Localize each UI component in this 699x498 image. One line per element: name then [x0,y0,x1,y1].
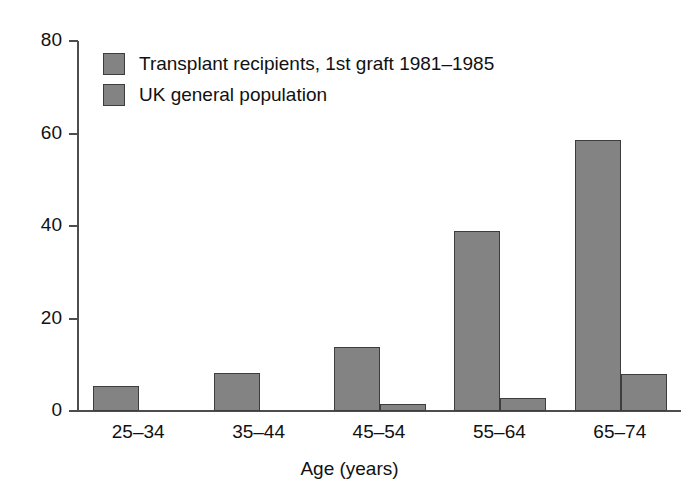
legend-swatch-icon [103,84,125,106]
bar [214,373,260,411]
legend-item-uk-general-population: UK general population [103,79,494,110]
y-tick-mark [69,318,78,320]
y-tick-label: 40 [0,215,62,234]
x-tick-label: 65–74 [560,421,680,443]
x-tick-label: 35–44 [198,421,318,443]
bar [334,347,380,411]
y-tick-label: 60 [0,123,62,142]
x-tick-label: 45–54 [319,421,439,443]
y-tick-label: 20 [0,308,62,327]
bar [500,398,546,411]
y-tick-label: 80 [0,30,62,49]
y-tick-mark [69,225,78,227]
x-tick-label: 55–64 [439,421,559,443]
bar [380,404,426,411]
legend-label-uk-general-population: UK general population [139,84,327,106]
legend-item-transplant-recipients: Transplant recipients, 1st graft 1981–19… [103,48,494,79]
y-tick-mark [69,410,78,412]
bar [454,231,500,411]
bar [575,140,621,411]
legend-label-transplant-recipients: Transplant recipients, 1st graft 1981–19… [139,53,494,75]
chart-legend: Transplant recipients, 1st graft 1981–19… [103,48,494,110]
y-tick-mark [69,133,78,135]
bar-chart: 020406080 25–3435–4445–5455–6465–74 Age … [0,0,699,498]
bar [93,386,139,411]
x-tick-label: 25–34 [78,421,198,443]
legend-swatch-icon [103,53,125,75]
bar [621,374,667,411]
x-axis-title: Age (years) [0,458,699,480]
y-tick-label: 0 [0,400,62,419]
y-tick-mark [69,40,78,42]
